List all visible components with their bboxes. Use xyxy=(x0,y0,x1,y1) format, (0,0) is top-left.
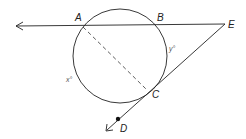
label-c: C xyxy=(152,89,160,100)
arc-label-x: x° xyxy=(65,76,73,83)
label-e: E xyxy=(228,19,235,30)
geometry-diagram: A B E C D x° y° xyxy=(0,0,246,139)
point-d-dot xyxy=(116,117,120,121)
dashed-chord-ac xyxy=(83,27,146,89)
label-d: D xyxy=(120,123,127,134)
label-b: B xyxy=(157,12,164,23)
secant-line-eba xyxy=(16,24,225,26)
label-a: A xyxy=(74,12,82,23)
arc-label-y: y° xyxy=(168,45,176,53)
tangent-line-ecd xyxy=(107,24,225,130)
